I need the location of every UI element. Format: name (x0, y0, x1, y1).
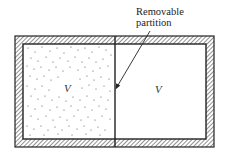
free-expansion-diagram: Removable partition V V (0, 0, 225, 152)
right-volume-label: V (155, 84, 162, 95)
container-drawing (0, 0, 225, 152)
annotation-line-2: partition (136, 17, 184, 28)
annotation-line-1: Removable (136, 6, 184, 17)
left-volume-label: V (64, 83, 71, 94)
partition-annotation: Removable partition (136, 6, 184, 28)
